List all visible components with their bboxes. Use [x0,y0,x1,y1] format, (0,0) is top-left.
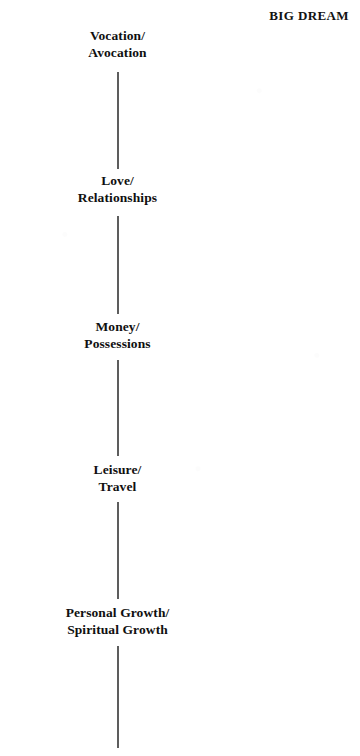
node-leisure-line1: Leisure/ [94,462,142,477]
paper-grain-overlay [0,0,360,756]
big-dream-diagram: BIG DREAM Vocation/ Avocation Love/ Rela… [0,0,360,756]
node-love-line2: Relationships [0,189,235,206]
node-money-line1: Money/ [95,319,139,334]
node-vocation-line1: Vocation/ [90,28,145,43]
node-money-line2: Possessions [0,335,235,352]
node-leisure: Leisure/ Travel [0,461,235,496]
node-growth-line1: Personal Growth/ [66,605,170,620]
node-love: Love/ Relationships [0,172,235,207]
node-love-line1: Love/ [101,173,134,188]
node-money: Money/ Possessions [0,318,235,353]
spine-segment-1 [117,72,119,169]
node-vocation: Vocation/ Avocation [0,27,235,62]
page-title: BIG DREAM [269,8,349,24]
node-growth-line2: Spiritual Growth [0,621,235,638]
node-leisure-line2: Travel [0,478,235,495]
node-vocation-line2: Avocation [0,44,235,61]
spine-segment-4 [117,502,119,599]
spine-segment-5 [117,646,119,748]
spine-segment-3 [117,360,119,456]
spine-segment-2 [117,216,119,314]
node-growth: Personal Growth/ Spiritual Growth [0,604,235,639]
